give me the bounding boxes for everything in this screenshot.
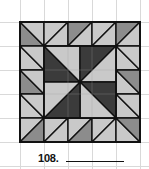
quilt-block xyxy=(0,0,149,169)
answer-blank[interactable] xyxy=(66,161,124,162)
answer-row: 108. xyxy=(38,150,124,164)
problem-number: 108. xyxy=(38,152,59,164)
pinwheel xyxy=(44,46,116,118)
